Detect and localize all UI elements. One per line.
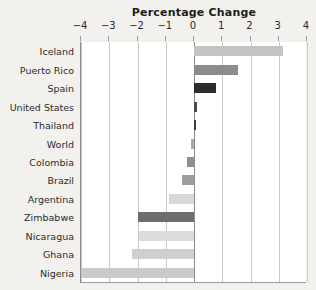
gridline--2	[138, 42, 139, 282]
bar-ghana	[132, 249, 194, 259]
tick-label--3: −3	[101, 20, 116, 31]
gridline--4	[81, 42, 82, 282]
bar-spain	[194, 83, 216, 93]
tick-mark-3	[278, 36, 279, 41]
category-label-nigeria: Nigeria	[0, 267, 74, 278]
plot-area	[80, 42, 306, 282]
tick-mark--3	[108, 36, 109, 41]
chart-title: Percentage Change	[0, 6, 316, 19]
tick-mark--1	[165, 36, 166, 41]
tick-label--2: −2	[129, 20, 144, 31]
bar-argentina	[169, 194, 194, 204]
tick-label-4: 4	[303, 20, 309, 31]
category-label-united-states: United States	[0, 101, 74, 112]
gridline-4	[307, 42, 308, 282]
tick-mark-1	[221, 36, 222, 41]
category-label-puerto-rico: Puerto Rico	[0, 64, 74, 75]
tick-label-0: 0	[190, 20, 196, 31]
tick-mark-4	[306, 36, 307, 41]
category-label-world: World	[0, 138, 74, 149]
chart-title-text: Percentage Change	[132, 6, 257, 19]
category-label-argentina: Argentina	[0, 193, 74, 204]
category-label-nicaragua: Nicaragua	[0, 230, 74, 241]
gridline--1	[166, 42, 167, 282]
bar-colombia	[187, 157, 194, 167]
bar-nicaragua	[139, 231, 194, 241]
percentage-change-bar-chart: Percentage Change −4−3−2−101234 IcelandP…	[0, 0, 316, 290]
tick-mark-2	[250, 36, 251, 41]
axis-baseline	[80, 282, 306, 283]
gridline-1	[222, 42, 223, 282]
tick-mark-0	[193, 36, 194, 41]
category-label-spain: Spain	[0, 83, 74, 94]
bar-iceland	[194, 46, 283, 56]
category-label-colombia: Colombia	[0, 157, 74, 168]
bar-united-states	[194, 102, 197, 112]
gridline-2	[251, 42, 252, 282]
category-label-thailand: Thailand	[0, 120, 74, 131]
gridline-0	[194, 42, 195, 282]
category-label-zimbabwe: Zimbabwe	[0, 212, 74, 223]
gridline--3	[109, 42, 110, 282]
bar-puerto-rico	[194, 65, 238, 75]
tick-label-3: 3	[275, 20, 281, 31]
tick-label--1: −1	[157, 20, 172, 31]
bar-thailand	[194, 120, 196, 130]
category-label-iceland: Iceland	[0, 46, 74, 57]
tick-label-2: 2	[246, 20, 252, 31]
gridline-3	[279, 42, 280, 282]
tick-label-1: 1	[218, 20, 224, 31]
category-label-ghana: Ghana	[0, 249, 74, 260]
bar-brazil	[182, 175, 194, 185]
tick-mark--2	[137, 36, 138, 41]
tick-mark--4	[80, 36, 81, 41]
tick-label--4: −4	[73, 20, 88, 31]
category-label-brazil: Brazil	[0, 175, 74, 186]
bar-nigeria	[81, 268, 194, 278]
bar-world	[191, 139, 194, 149]
bar-zimbabwe	[138, 212, 195, 222]
